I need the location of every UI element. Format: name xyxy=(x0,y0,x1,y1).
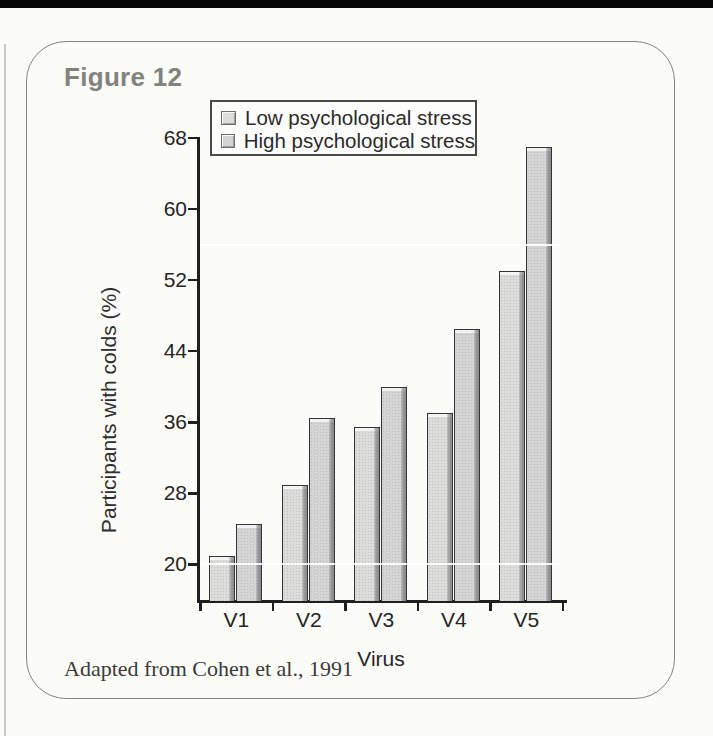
y-tick-label-20: 20 xyxy=(143,552,187,576)
bar-v2-low xyxy=(282,485,308,602)
bar-v1-low xyxy=(209,556,235,601)
y-tick-44 xyxy=(188,350,197,353)
bar-side-shadow xyxy=(302,486,307,602)
figure-title: Figure 12 xyxy=(64,62,182,93)
x-category-label-v3: V3 xyxy=(345,608,418,632)
bar-v4-low xyxy=(427,413,453,601)
y-tick-label-60: 60 xyxy=(143,197,187,221)
x-category-label-v1: V1 xyxy=(200,608,273,632)
legend-label-high: High psychological stress xyxy=(244,129,475,153)
bar-side-shadow xyxy=(546,148,551,601)
y-tick-20 xyxy=(188,563,197,566)
y-tick-60 xyxy=(188,208,197,211)
bar-side-shadow xyxy=(474,330,479,601)
bar-v3-high xyxy=(381,387,407,601)
legend: Low psychological stress High psychologi… xyxy=(210,100,477,156)
y-tick-label-52: 52 xyxy=(143,268,187,292)
bar-side-shadow xyxy=(401,388,406,601)
legend-row-low: Low psychological stress xyxy=(221,106,475,129)
source-caption: Adapted from Cohen et al., 1991 xyxy=(64,656,353,682)
white-gridline-56 xyxy=(201,244,561,246)
bar-v5-high xyxy=(526,147,552,601)
page-left-gray-rule xyxy=(4,44,6,736)
bar-v3-low xyxy=(354,427,380,601)
y-tick-28 xyxy=(188,492,197,495)
bar-side-shadow xyxy=(519,272,524,601)
x-category-label-v4: V4 xyxy=(418,608,491,632)
y-tick-label-44: 44 xyxy=(143,339,187,363)
y-tick-36 xyxy=(188,421,197,424)
page: Figure 12 20283644526068V1V2V3V4V5 Parti… xyxy=(0,0,713,736)
legend-row-high: High psychological stress xyxy=(221,129,475,152)
bar-side-shadow xyxy=(329,419,334,601)
bar-v5-low xyxy=(499,271,525,601)
bar-side-shadow xyxy=(374,428,379,601)
bar-side-shadow xyxy=(447,414,452,601)
legend-swatch-high-icon xyxy=(221,134,235,148)
bar-v2-high xyxy=(309,418,335,601)
y-tick-68 xyxy=(188,137,197,140)
y-tick-label-68: 68 xyxy=(143,126,187,150)
bar-v4-high xyxy=(454,329,480,601)
x-category-label-v5: V5 xyxy=(490,608,563,632)
y-axis-line xyxy=(197,137,200,603)
y-tick-label-36: 36 xyxy=(143,410,187,434)
legend-swatch-low-icon xyxy=(221,111,236,125)
y-tick-label-28: 28 xyxy=(143,481,187,505)
white-gridline-20 xyxy=(201,563,561,565)
y-axis-title: Participants with colds (%) xyxy=(97,280,121,540)
legend-label-low: Low psychological stress xyxy=(245,106,472,130)
x-category-label-v2: V2 xyxy=(273,608,346,632)
y-tick-52 xyxy=(188,279,197,282)
page-top-black-rule xyxy=(0,0,713,8)
